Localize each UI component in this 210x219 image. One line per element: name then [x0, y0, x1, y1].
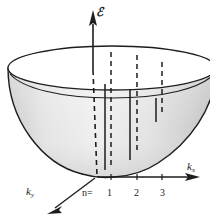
- kx-axis-label: kx: [187, 161, 195, 174]
- kx-axis-label-subscript: x: [192, 166, 195, 174]
- kx-tick-label-2: 2: [134, 188, 139, 198]
- figure-container: ℰ kx ky n= 1 2 3: [0, 0, 210, 219]
- ky-axis-arrowhead: [47, 206, 62, 214]
- kx-tick-label-1: 1: [107, 188, 112, 198]
- ky-axis-label-subscript: y: [31, 191, 34, 199]
- quantum-number-prefix: n=: [82, 188, 93, 198]
- ky-axis-label: ky: [26, 186, 34, 199]
- kx-tick-label-3: 3: [160, 188, 165, 198]
- energy-axis-label: ℰ: [96, 6, 103, 18]
